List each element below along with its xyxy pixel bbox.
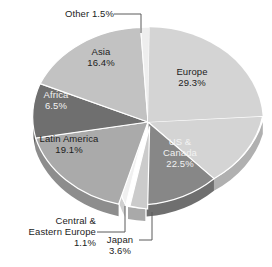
slice-label-asia-name: Asia <box>92 46 111 57</box>
slice-label-other-text: Other 1.5% <box>65 8 114 19</box>
slice-label-europe-name: Europe <box>176 66 207 77</box>
slice-label-japan-name: Japan <box>107 234 133 245</box>
slice-label-cee-value: 1.1% <box>0 237 96 248</box>
slice-label-africa-name: Africa <box>44 89 69 100</box>
pie-side-japan <box>128 207 145 221</box>
pie-slices <box>33 27 263 209</box>
slice-label-cee-line1: Central & <box>55 215 96 226</box>
slice-label-us-canada-line2: Canada <box>152 147 208 158</box>
slice-label-japan: Japan 3.6% <box>100 234 140 256</box>
slice-label-europe: Europe 29.3% <box>162 66 222 88</box>
slice-label-us-canada: US & Canada 22.5% <box>152 136 208 169</box>
slice-label-us-canada-value: 22.5% <box>152 158 208 169</box>
slice-label-central-eastern-europe: Central & Eastern Europe 1.1% <box>0 215 96 248</box>
slice-label-africa-value: 6.5% <box>30 100 82 111</box>
slice-label-cee-line2: Eastern Europe <box>0 226 96 237</box>
slice-label-japan-value: 3.6% <box>100 245 140 256</box>
slice-label-europe-value: 29.3% <box>162 77 222 88</box>
slice-label-latin-america-value: 19.1% <box>24 144 114 155</box>
slice-label-latin-america: Latin America 19.1% <box>24 133 114 155</box>
slice-label-asia-value: 16.4% <box>74 57 128 68</box>
slice-label-us-canada-line1: US & <box>169 136 192 147</box>
slice-label-asia: Asia 16.4% <box>74 46 128 68</box>
slice-label-other: Other 1.5% <box>42 8 114 19</box>
pie-chart-figure: Other 1.5% Europe 29.3% Asia 16.4% Afric… <box>0 0 272 267</box>
slice-label-africa: Africa 6.5% <box>30 89 82 111</box>
slice-label-latin-america-name: Latin America <box>40 133 99 144</box>
